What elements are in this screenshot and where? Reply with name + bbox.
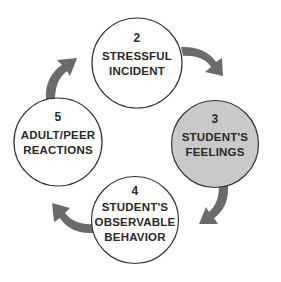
node-5-number: 5 [12,110,104,125]
arrow-4-to-5-icon [52,203,93,233]
node-5-label: 5 ADULT/PEER REACTIONS [12,110,104,158]
node-3-label: 3 STUDENT'S FEELINGS [170,112,260,160]
node-4-line2: OBSERVABLE [88,215,182,230]
node-5-line1: ADULT/PEER [12,128,104,143]
node-5-line2: REACTIONS [12,143,104,158]
node-4-number: 4 [88,184,182,199]
node-2-line2: INCIDENT [92,64,182,79]
node-2-line1: STRESSFUL [92,49,182,64]
node-4-line3: BEHAVIOR [88,230,182,245]
arrow-5-to-2-icon [46,58,77,99]
arrow-3-to-4-icon [199,185,228,224]
node-4-label: 4 STUDENT'S OBSERVABLE BEHAVIOR [88,184,182,245]
arrow-2-to-3-icon [181,47,223,76]
node-2-label: 2 STRESSFUL INCIDENT [92,31,182,79]
node-3-number: 3 [170,112,260,127]
node-4-line1: STUDENT'S [88,200,182,215]
node-3-line1: STUDENT'S [170,130,260,145]
node-2-number: 2 [92,31,182,46]
node-3-line2: FEELINGS [170,145,260,160]
